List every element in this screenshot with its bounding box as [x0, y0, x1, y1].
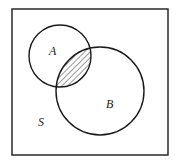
set-b-circle — [56, 47, 144, 135]
venn-diagram: A B S — [0, 0, 177, 165]
set-a-label: A — [48, 44, 57, 58]
universe-rectangle — [12, 9, 168, 155]
set-b-label: B — [106, 97, 114, 111]
universe-label: S — [38, 115, 44, 129]
